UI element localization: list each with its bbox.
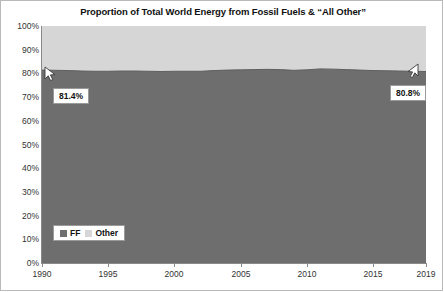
legend-swatch-other [85,230,92,237]
y-axis-tick-label: 60% [5,116,39,126]
x-axis-line [42,263,427,264]
y-axis-tick-label: 70% [5,92,39,102]
y-axis-tick-label: 80% [5,68,39,78]
arrow-up-right-icon [405,63,419,79]
x-axis-tick [174,263,175,267]
chart-frame: Proportion of Total World Energy from Fo… [0,0,443,291]
y-axis-tick-label: 30% [5,187,39,197]
y-axis-tick-label: 20% [5,211,39,221]
legend-swatch-ff [60,230,67,237]
y-axis: 100%90%80%70%60%50%40%30%20%10%0% [1,1,39,292]
y-axis-tick-label: 10% [5,234,39,244]
x-axis-tick [307,263,308,267]
x-axis-tick-label: 2000 [165,269,184,279]
annotation-label-last: 80.8% [390,85,426,101]
x-axis-tick [108,263,109,267]
x-axis-tick-label: 2005 [232,269,251,279]
legend-item-other: Other [85,228,118,238]
chart-title: Proportion of Total World Energy from Fo… [1,6,444,17]
legend-label-ff: FF [70,228,80,238]
x-axis-tick-label: 1995 [99,269,118,279]
x-axis-tick [373,263,374,267]
y-axis-tick-label: 90% [5,45,39,55]
x-axis-tick [42,263,43,267]
y-axis-tick-label: 40% [5,163,39,173]
y-axis-tick-label: 50% [5,140,39,150]
annotation-label-first: 81.4% [53,88,89,104]
x-axis-tick-label: 2015 [364,269,383,279]
x-axis-tick-label: 1990 [33,269,52,279]
y-axis-tick-label: 0% [5,258,39,268]
x-axis-tick [241,263,242,267]
arrow-up-left-icon [44,66,58,82]
x-axis-tick-label: 2010 [298,269,317,279]
chart-legend: FF Other [53,225,125,241]
legend-label-other: Other [95,228,118,238]
x-axis-tick-label: 2019 [417,269,436,279]
y-axis-tick-label: 100% [5,21,39,31]
x-axis-tick [426,263,427,267]
legend-item-ff: FF [60,228,80,238]
